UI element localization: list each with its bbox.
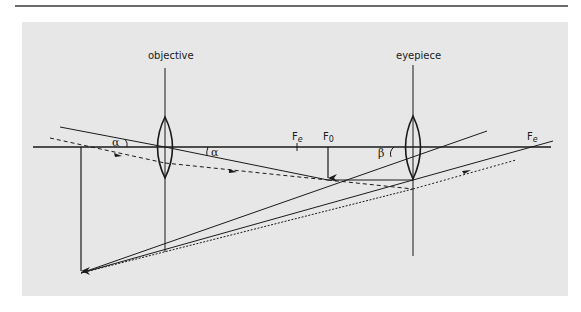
- dashed-ray-incoming: [50, 138, 165, 163]
- angle-alpha-right-arc: [207, 147, 208, 156]
- dashed-ray-after-objective: [165, 163, 328, 180]
- ray-virtual-extension: [81, 180, 413, 273]
- ray-virtual-through-eyepiece-center: [81, 131, 487, 273]
- f0-label: F0: [323, 131, 334, 144]
- objective-label: objective: [148, 50, 194, 61]
- angle-beta-label: β: [378, 147, 384, 160]
- dashed-ray-virtual: [81, 189, 413, 273]
- direction-arrow-icon: [229, 169, 237, 173]
- direction-arrow-icon: [462, 170, 471, 174]
- dashed-ray-outgoing: [413, 160, 516, 189]
- ray-chief-after-objective: [165, 147, 328, 180]
- ray-diagram: objective eyepiece α α β Fe F0 Fe: [0, 0, 581, 312]
- dashed-ray-to-eyepiece: [328, 180, 413, 189]
- eyepiece-label: eyepiece: [396, 50, 441, 61]
- fe-right-label: Fe: [527, 131, 538, 144]
- angle-beta-arc: [390, 147, 394, 157]
- angle-alpha-right-label: α: [211, 146, 219, 159]
- fe-left-label: Fe: [292, 131, 303, 144]
- angle-alpha-left-label: α: [112, 136, 120, 149]
